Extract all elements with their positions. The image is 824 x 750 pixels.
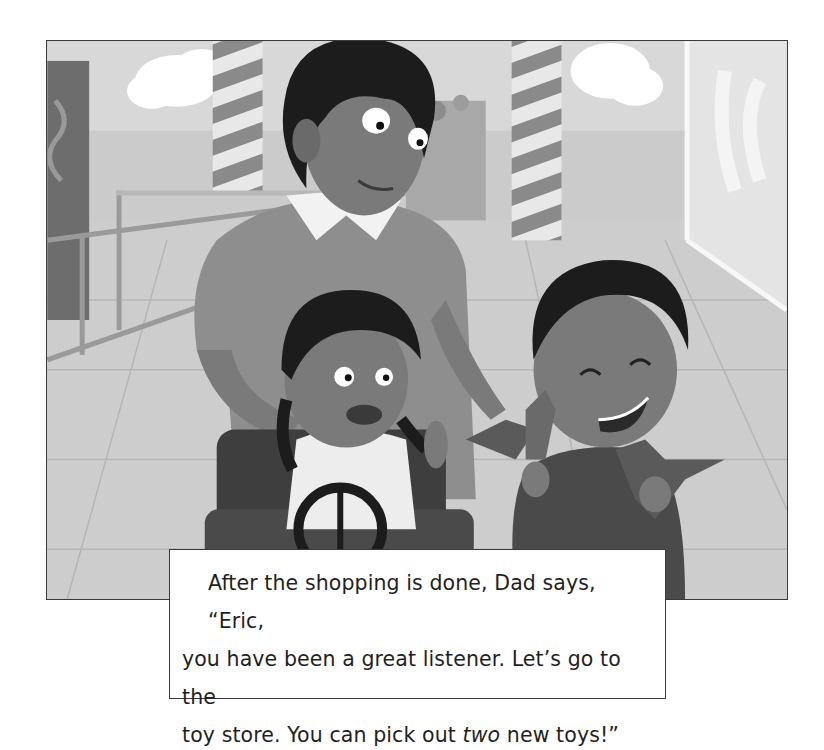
story-text-line-1-content: After the shopping is done, Dad says, “E… [208, 571, 596, 633]
story-text-box: After the shopping is done, Dad says, “E… [169, 549, 666, 699]
story-illustration [46, 40, 788, 600]
story-text-line-3-end: new toys!” [500, 723, 619, 747]
story-text-line-2: you have been a great listener. Let’s go… [182, 640, 653, 716]
story-text-line-3-start: toy store. You can pick out [182, 723, 463, 747]
mall-scene-image [47, 41, 787, 599]
story-text-line-1: After the shopping is done, Dad says, “E… [182, 564, 653, 640]
emphasized-word: two [463, 723, 501, 747]
story-text-line-3: toy store. You can pick out two new toys… [182, 716, 653, 750]
